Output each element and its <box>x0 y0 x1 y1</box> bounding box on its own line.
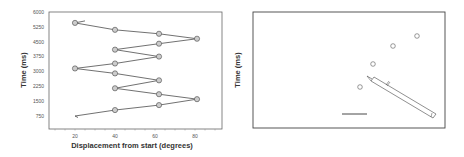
data-point-marker <box>156 41 161 46</box>
data-point-marker <box>156 78 161 83</box>
data-point-marker <box>72 66 77 71</box>
right-frame <box>253 12 445 128</box>
y-tick-label: 3000 <box>33 68 44 74</box>
data-point-marker <box>112 27 117 32</box>
x-tick-labels: 20406080 <box>72 133 198 139</box>
y-tick-label: 5250 <box>33 24 44 30</box>
data-point-marker <box>112 71 117 76</box>
data-point-marker <box>112 86 117 91</box>
data-point-marker <box>156 103 161 108</box>
data-point-marker <box>112 107 117 112</box>
x-tick-label: 80 <box>192 133 198 139</box>
left-chart: 6000525045003750300022501500750 20406080… <box>19 9 222 150</box>
data-point-marker <box>194 36 199 41</box>
data-point-marker <box>156 92 161 97</box>
target-circle <box>358 85 363 90</box>
data-point-marker <box>112 61 117 66</box>
data-point-marker <box>156 31 161 36</box>
y-tick-labels: 6000525045003750300022501500750 <box>33 9 44 119</box>
y-tick-label: 2250 <box>33 83 44 89</box>
y-tick-label: 3750 <box>33 53 44 59</box>
x-tick-label: 20 <box>72 133 78 139</box>
right-panel: Time (ms) <box>233 12 445 128</box>
x-tick-label: 40 <box>112 133 118 139</box>
y-tick-label: 6000 <box>33 9 44 15</box>
target-circle <box>415 34 420 39</box>
figure: 6000525045003750300022501500750 20406080… <box>0 0 464 157</box>
right-y-axis-label: Time (ms) <box>233 52 242 88</box>
pen-icon <box>367 76 436 118</box>
data-point-marker <box>72 20 77 25</box>
x-axis-label: Displacement from start (degrees) <box>71 141 193 150</box>
data-point-marker <box>112 47 117 52</box>
trajectory-line <box>75 21 197 118</box>
y-tick-label: 4500 <box>33 39 44 45</box>
target-circle <box>391 44 396 49</box>
y-axis-label: Time (ms) <box>19 52 28 88</box>
data-point-marker <box>156 54 161 59</box>
x-tick-label: 60 <box>152 133 158 139</box>
target-circle <box>371 62 376 67</box>
data-point-marker <box>194 97 199 102</box>
y-tick-label: 750 <box>36 113 45 119</box>
y-tick-label: 1500 <box>33 98 44 104</box>
